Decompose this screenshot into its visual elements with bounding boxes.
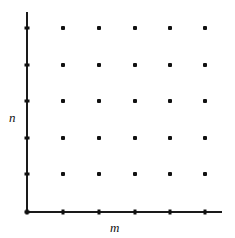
lattice-point (203, 63, 207, 67)
axis-lines (27, 12, 222, 212)
lattice-point (97, 63, 101, 67)
lattice-point (61, 136, 65, 140)
axis-ticks (25, 28, 206, 215)
lattice-point (97, 172, 101, 176)
lattice-point (97, 99, 101, 103)
lattice-grid-figure: n m (0, 0, 235, 238)
y-axis-label: n (9, 111, 16, 124)
lattice-point (168, 172, 172, 176)
lattice-point (133, 63, 137, 67)
lattice-point-group (61, 26, 207, 176)
x-axis-label: m (110, 221, 119, 234)
lattice-point (61, 26, 65, 30)
plot-canvas (0, 0, 235, 238)
lattice-point (61, 99, 65, 103)
lattice-point (61, 63, 65, 67)
lattice-point (133, 26, 137, 30)
lattice-point (203, 172, 207, 176)
lattice-point (97, 26, 101, 30)
lattice-point (203, 99, 207, 103)
lattice-point (168, 26, 172, 30)
lattice-point (133, 99, 137, 103)
lattice-point (97, 136, 101, 140)
lattice-point (203, 26, 207, 30)
lattice-point (133, 136, 137, 140)
lattice-point (168, 63, 172, 67)
lattice-point (133, 172, 137, 176)
lattice-point (61, 172, 65, 176)
lattice-point (203, 136, 207, 140)
lattice-point (168, 136, 172, 140)
lattice-point (168, 99, 172, 103)
